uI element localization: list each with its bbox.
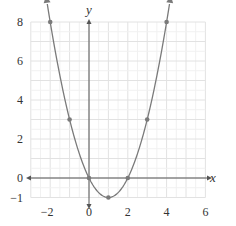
y-tick-label: 8 bbox=[17, 15, 23, 29]
data-point bbox=[67, 117, 72, 122]
x-tick-labels: −20246 bbox=[41, 205, 209, 219]
x-axis-label: x bbox=[209, 170, 216, 185]
data-point bbox=[87, 176, 92, 181]
y-axis-label: y bbox=[84, 2, 92, 17]
x-tick-label: −2 bbox=[41, 205, 54, 219]
y-tick-label: 2 bbox=[17, 132, 23, 146]
y-tick-labels: −102468 bbox=[10, 15, 23, 205]
curve-left-arrow-icon bbox=[44, 0, 51, 3]
data-point bbox=[48, 20, 53, 25]
data-point bbox=[145, 117, 150, 122]
data-point bbox=[106, 195, 111, 200]
axes bbox=[26, 19, 212, 209]
curve-right-arrow-icon bbox=[166, 0, 173, 3]
data-point bbox=[126, 176, 131, 181]
y-tick-label: 6 bbox=[17, 54, 23, 68]
x-axis-left-arrow-icon bbox=[26, 176, 31, 181]
x-tick-label: 2 bbox=[125, 205, 131, 219]
x-tick-label: 4 bbox=[164, 205, 170, 219]
y-tick-label: 4 bbox=[17, 93, 23, 107]
parabola-chart: −20246 −102468 x y bbox=[0, 0, 236, 226]
y-tick-label: 0 bbox=[17, 171, 23, 185]
data-point bbox=[164, 20, 169, 25]
y-tick-label: −1 bbox=[10, 191, 23, 205]
x-tick-label: 0 bbox=[86, 205, 92, 219]
grid bbox=[31, 22, 206, 198]
x-tick-label: 6 bbox=[202, 205, 208, 219]
